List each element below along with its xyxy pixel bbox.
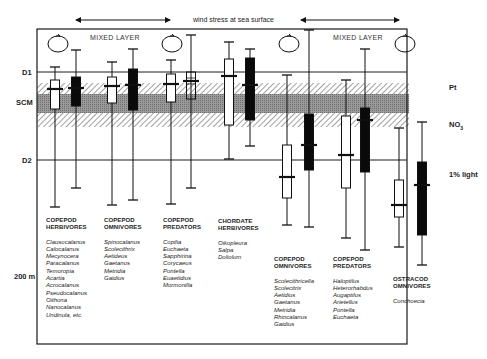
species-name: Gaidius [274, 321, 314, 328]
group-title: HERBIVORES [46, 224, 87, 231]
depth-label-d2: D2 [22, 156, 32, 165]
species-name: Gaetanus [274, 299, 314, 306]
species-name: Arietellus [333, 299, 373, 306]
label-pt: Pt [449, 83, 457, 92]
group-title: COPEPOD [163, 217, 201, 224]
species-name: Conchoecia [393, 298, 431, 305]
species-name: Gaidius [104, 275, 142, 282]
group-title: CHORDATE [218, 218, 259, 225]
boxplot [391, 128, 407, 247]
species-name: Salpa [218, 247, 259, 254]
species-name: Scolecithricella [274, 278, 314, 285]
species-name: Paracalanus [46, 260, 87, 267]
mixed-layer-label-left: MIXED LAYER [90, 34, 140, 41]
boxplot [47, 67, 63, 207]
boxplot [414, 122, 430, 265]
species-name: Calocalanus [46, 246, 87, 253]
boxplot [301, 30, 317, 227]
group-chordate-herbivores: CHORDATE HERBIVORES OikopleuraSalpaDolio… [218, 218, 259, 261]
species-name: Copilia [163, 239, 201, 246]
species-name: Mormonilla [163, 282, 201, 289]
group-copepod-omnivores: COPEPOD OMNIVORES SpinocalanusScolecithr… [104, 217, 142, 282]
species-name: Rhincalanus [274, 314, 314, 321]
species-name: Scolecithrix [104, 246, 142, 253]
species-name: Nanocalanus [46, 304, 87, 311]
boxplot [163, 60, 179, 204]
group-deep-copepod-predators: COPEPOD PREDATORS HaloptilusHeterorhabdu… [333, 256, 373, 321]
species-name: Metridia [274, 307, 314, 314]
species-name: Euchaeta [333, 314, 373, 321]
group-title: HERBIVORES [218, 225, 259, 232]
species-name: Clausocalanus [46, 239, 87, 246]
species-name: Pseudocalanus [46, 290, 87, 297]
species-name: Temoropia [46, 268, 87, 275]
group-ostracod-omnivores: OSTRACOD OMNIVORES Conchoecia [393, 276, 431, 305]
species-name: Spinocalanus [104, 239, 142, 246]
group-title: OSTRACOD [393, 276, 431, 283]
mixed-layer-label-right: MIXED LAYER [333, 34, 383, 41]
pt-hatched-band [37, 83, 409, 94]
depth-label-scm: SCM [16, 98, 33, 107]
wind-stress-label: wind stress at sea surface [193, 16, 274, 23]
species-name: Sapphirina [163, 253, 201, 260]
species-name: Euaetidius [163, 275, 201, 282]
group-title: COPEPOD [333, 256, 373, 263]
group-title: COPEPOD [104, 217, 142, 224]
label-1pct-light: 1% light [449, 170, 478, 179]
species-name: Scolecitrix [274, 285, 314, 292]
depth-label-200m: 200 m [14, 272, 35, 281]
group-deep-copepod-omnivores: COPEPOD OMNIVORES ScolecithricellaScolec… [274, 256, 314, 329]
species-name: Mecynocera [46, 253, 87, 260]
species-name: Gaetanus [104, 260, 142, 267]
group-title: OMNIVORES [274, 263, 314, 270]
species-name: Acrocalanus [46, 282, 87, 289]
species-name: Acartia [46, 275, 87, 282]
label-no3: NO3 [449, 120, 463, 131]
species-name: Pontella [163, 268, 201, 275]
group-copepod-herbivores: COPEPOD HERBIVORES ClausocalanusCalocala… [46, 217, 87, 319]
species-name: Doliolum [218, 254, 259, 261]
group-title: PREDATORS [163, 224, 201, 231]
species-name: Augaptilus [333, 292, 373, 299]
species-name: Pontella [333, 307, 373, 314]
species-name: Undinula, etc. [46, 312, 87, 319]
no3-hatched-band [37, 113, 409, 127]
species-name: Oikopleura [218, 240, 259, 247]
species-name: Oithona [46, 297, 87, 304]
species-name: Aetidius [274, 292, 314, 299]
boxplot [357, 49, 373, 250]
species-name: Aetideus [104, 253, 142, 260]
scm-band [37, 94, 409, 113]
group-title: COPEPOD [46, 217, 87, 224]
species-name: Haloptilus [333, 278, 373, 285]
group-title: PREDATORS [333, 263, 373, 270]
species-name: Euchaeta [163, 246, 201, 253]
group-title: COPEPOD [274, 256, 314, 263]
species-name: Metridia [104, 268, 142, 275]
group-copepod-predators: COPEPOD PREDATORS CopiliaEuchaetaSapphir… [163, 217, 201, 290]
species-name: Heterorhabdus [333, 285, 373, 292]
group-title: OMNIVORES [393, 283, 431, 290]
group-title: OMNIVORES [104, 224, 142, 231]
species-name: Corycaeus [163, 260, 201, 267]
depth-label-d1: D1 [22, 68, 32, 77]
